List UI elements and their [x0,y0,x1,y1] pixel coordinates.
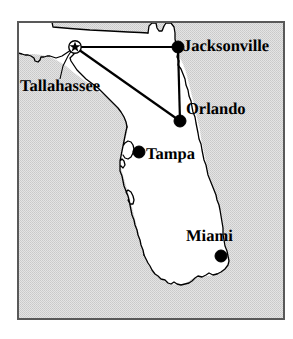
city-label-miami: Miami [186,228,233,245]
city-label-orlando: Orlando [186,101,246,118]
marker-orlando[interactable] [174,115,186,127]
marker-tallahassee[interactable] [69,41,81,53]
city-label-tallahassee: Tallahassee [20,78,100,95]
city-label-tampa: Tampa [146,146,195,163]
marker-miami[interactable] [215,250,227,262]
florida-map-figure: Tallahassee Jacksonville Orlando Tampa M… [0,0,293,339]
city-label-jacksonville: Jacksonville [183,38,269,55]
marker-tampa[interactable] [133,146,145,158]
